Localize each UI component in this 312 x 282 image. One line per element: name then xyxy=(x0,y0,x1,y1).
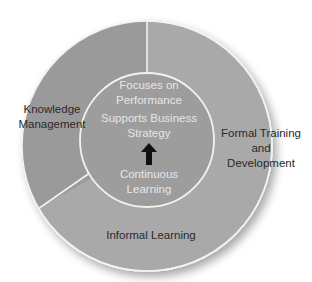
label-supports-business-strategy: Supports Business Strategy xyxy=(92,111,206,141)
label-line: Continuous xyxy=(97,167,201,182)
label-line: Supports Business xyxy=(92,111,206,126)
label-continuous-learning: Continuous Learning xyxy=(97,167,201,197)
label-line: and xyxy=(214,141,308,156)
label-focuses-on-performance: Focuses on Performance xyxy=(97,78,201,108)
label-line: Knowledge xyxy=(14,102,90,117)
label-line: Management xyxy=(14,117,90,132)
label-line: Development xyxy=(214,156,308,171)
label-line: Formal Training xyxy=(214,126,308,141)
label-knowledge-management: Knowledge Management xyxy=(14,102,90,132)
label-line: Performance xyxy=(97,93,201,108)
label-formal-training: Formal Training and Development xyxy=(214,126,308,171)
label-line: Focuses on xyxy=(97,78,201,93)
label-line: Strategy xyxy=(92,126,206,141)
label-line: Informal Learning xyxy=(96,228,206,243)
label-line: Learning xyxy=(97,182,201,197)
label-informal-learning: Informal Learning xyxy=(96,228,206,243)
learning-ring-diagram: Knowledge Management Formal Training and… xyxy=(0,0,312,282)
